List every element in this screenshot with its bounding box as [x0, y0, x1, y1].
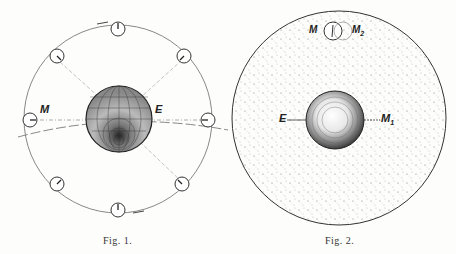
diagram-stage: M E Fig. 1. M M2 E M1 Fig. 2. [0, 0, 456, 254]
fig2-moon-label-m: M [309, 24, 317, 35]
fig1 [18, 22, 228, 217]
fig1-caption: Fig. 1. [103, 235, 132, 246]
fig2-caption: Fig. 2. [325, 235, 354, 246]
fig2-moon-label-m1: M1 [381, 112, 394, 126]
fig1-moon-label: M [40, 103, 49, 115]
fig2-moon-label-m2: M2 [352, 24, 364, 37]
fig1-earth-label: E [155, 103, 162, 115]
diagram-svg [0, 0, 456, 254]
fig2 [232, 11, 446, 225]
fig2-earth-label: E [279, 112, 286, 124]
